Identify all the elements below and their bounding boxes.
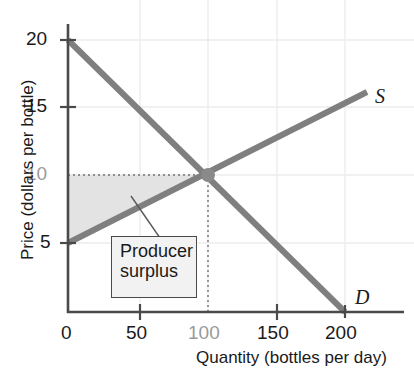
supply-curve-label: S (375, 85, 385, 108)
demand-curve-label: D (355, 286, 369, 309)
supply-curve (68, 92, 367, 243)
producer-surplus-callout: Producer surplus (111, 236, 197, 298)
x-tick-label-0: 0 (61, 322, 72, 344)
chart-canvas (0, 0, 414, 372)
callout-line-1: Producer (120, 241, 189, 261)
y-tick-label-20: 20 (26, 28, 47, 50)
x-axis-title: Quantity (bottles per day) (196, 348, 387, 368)
x-tick-label-200: 200 (325, 322, 357, 344)
x-tick-label-100: 100 (188, 322, 220, 344)
y-tick-label-5: 5 (40, 231, 51, 253)
callout-line-2: surplus (120, 261, 189, 281)
x-tick-label-150: 150 (257, 322, 289, 344)
x-tick-label-50: 50 (126, 322, 147, 344)
equilibrium-point-marker (201, 168, 215, 182)
producer-surplus-chart: 20 15 10 5 0 50 100 150 200 Price (dolla… (0, 0, 414, 372)
y-axis-title: Price (dollars per bottle) (18, 80, 38, 260)
